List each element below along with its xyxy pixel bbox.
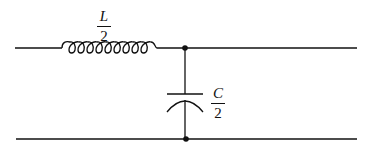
junction-dot-bottom: [183, 136, 189, 142]
capacitor-label-numerator: C: [212, 86, 224, 103]
capacitor-label-denominator: 2: [214, 104, 222, 121]
inductor-label-numerator: L: [99, 9, 109, 26]
inductor-label-denominator: 2: [100, 27, 108, 44]
inductor-label: L 2: [97, 9, 111, 44]
circuit-diagram: [0, 0, 370, 151]
capacitor-label: C 2: [211, 86, 225, 121]
junction-dot-top: [182, 45, 188, 51]
